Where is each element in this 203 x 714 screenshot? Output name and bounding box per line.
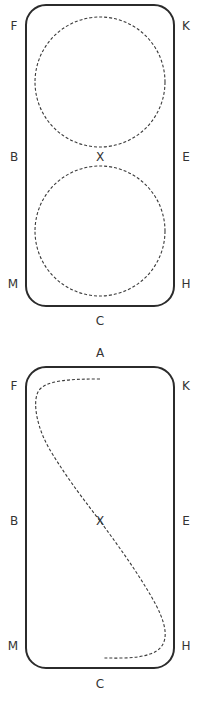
marker-m-bottom: M: [8, 639, 18, 653]
marker-c-bottom: C: [96, 677, 104, 691]
marker-k-bottom: K: [182, 379, 191, 393]
marker-f-bottom: F: [11, 379, 18, 393]
diagram-canvas: F K B X E M H C A F K B X E M H C: [0, 0, 203, 714]
marker-h-bottom: H: [181, 639, 190, 653]
marker-x-bottom: X: [96, 514, 104, 528]
marker-b-top: B: [10, 150, 18, 164]
diagram-s-line: A F K B X E M H C: [8, 346, 191, 691]
marker-x-top: X: [96, 150, 104, 164]
upper-circle-path: [35, 17, 165, 147]
marker-e-bottom: E: [182, 514, 190, 528]
marker-m-top: M: [8, 277, 18, 291]
marker-c-top: C: [96, 314, 104, 328]
marker-e-top: E: [182, 150, 190, 164]
marker-b-bottom: B: [10, 514, 18, 528]
marker-a-bottom: A: [96, 346, 105, 360]
lower-circle-path: [35, 166, 165, 296]
marker-k-top: K: [182, 19, 191, 33]
marker-f-top: F: [11, 19, 18, 33]
marker-h-top: H: [181, 277, 190, 291]
diagram-figure-eight: F K B X E M H C: [8, 5, 191, 328]
